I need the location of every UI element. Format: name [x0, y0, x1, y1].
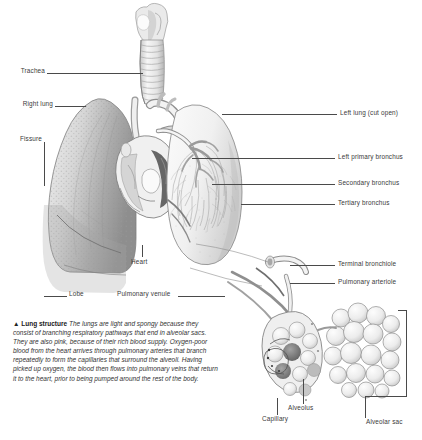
leader-tertiary-bronchus: [241, 204, 335, 205]
label-heart: Heart: [131, 259, 147, 265]
bronchiole-enlargement: [190, 244, 401, 401]
left-lung-cut-open: [158, 105, 242, 265]
label-fissure: Fissure: [0, 136, 42, 142]
leader-fissure: [44, 142, 45, 186]
label-left-primary-bronchus: Left primary bronchus: [338, 154, 403, 160]
leader-secondary-bronchus: [212, 184, 335, 185]
leader-alveolar-sac: [365, 396, 366, 418]
label-lobe: Lobe: [69, 291, 99, 297]
leader-alveolar-sac-arm: [365, 396, 407, 397]
caption-triangle-icon: ▲: [13, 320, 19, 327]
label-secondary-bronchus: Secondary bronchus: [338, 180, 399, 186]
lung-structure-figure: Trachea Right lung Fissure Lobe Heart Pu…: [0, 0, 422, 440]
leader-lobe: [44, 296, 67, 297]
label-pulmonary-venule: Pulmonary venule: [117, 291, 171, 297]
trachea-group: [136, 3, 168, 104]
bracket-alveolar-sac-top: [406, 310, 407, 396]
caption-text: The lungs are light and spongy because t…: [13, 320, 218, 382]
alveolar-sac-cluster: [324, 303, 401, 398]
leader-heart: [142, 245, 143, 257]
leader-pulmonary-venule: [178, 296, 225, 297]
label-trachea: Trachea: [0, 68, 45, 74]
label-right-lung: Right lung: [0, 101, 53, 107]
leader-alveolus: [303, 379, 304, 404]
label-capillary: Capillary: [262, 416, 288, 422]
caption-title: Lung structure: [21, 320, 67, 327]
leader-left-primary-bronchus: [192, 158, 335, 159]
leader-left-lung: [222, 114, 337, 115]
label-left-lung: Left lung (cut open): [340, 110, 398, 116]
heart-and-vessels: [116, 94, 219, 218]
bracket-alveolar-sac-arm-t: [398, 310, 407, 311]
label-tertiary-bronchus: Tertiary bronchus: [338, 200, 390, 206]
figure-caption: ▲ Lung structure The lungs are light and…: [13, 319, 218, 383]
label-alveolar-sac: Alveolar sac: [366, 419, 403, 425]
leader-right-lung: [55, 106, 86, 107]
right-lung-shape: [43, 99, 136, 293]
label-alveolus: Alveolus: [288, 405, 313, 411]
leader-capillary: [277, 398, 278, 415]
leader-pulmonary-arteriole: [290, 283, 335, 284]
label-pulmonary-arteriole: Pulmonary arteriole: [338, 279, 396, 285]
leader-trachea: [47, 73, 143, 74]
label-terminal-bronchiole: Terminal bronchiole: [338, 261, 396, 267]
leader-terminal-bronchiole: [290, 265, 335, 266]
